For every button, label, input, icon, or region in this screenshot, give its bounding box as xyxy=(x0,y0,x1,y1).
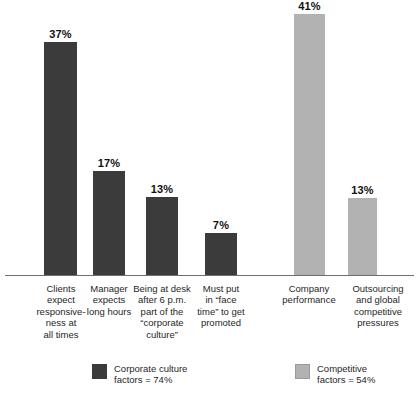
bar-value-label: 13% xyxy=(351,184,374,196)
bar-value-label: 7% xyxy=(213,219,229,231)
chart-legend: Corporate culture factors = 74% Competit… xyxy=(0,356,419,394)
bar-value-label: 17% xyxy=(98,157,121,169)
bar-rect xyxy=(294,14,325,276)
bar-manager-expects-long-hours[interactable]: 17% xyxy=(93,170,125,276)
legend-swatch-dark-icon xyxy=(92,364,107,379)
legend-swatch-light-icon xyxy=(295,364,310,379)
bar-value-label: 37% xyxy=(49,28,72,40)
bar-rect xyxy=(44,42,77,276)
legend-label: Competitive factors = 54% xyxy=(317,363,375,386)
bar-value-label: 41% xyxy=(298,0,321,12)
bar-outsourcing-and-global-competitive-pressures[interactable]: 13% xyxy=(348,197,377,276)
bar-rect xyxy=(93,171,125,276)
legend-label: Corporate culture factors = 74% xyxy=(114,363,187,386)
category-label-company-performance: Company performance xyxy=(272,283,346,306)
bar-being-at-desk-after-6pm[interactable]: 13% xyxy=(146,196,178,276)
bar-clients-expect-responsiveness[interactable]: 37% xyxy=(44,41,77,276)
bar-must-put-in-face-time[interactable]: 7% xyxy=(205,232,237,276)
legend-item-competitive[interactable]: Competitive factors = 54% xyxy=(295,363,375,386)
bar-chart: 37% 17% 13% 7% 41% 13% Clien xyxy=(0,0,419,394)
axis-baseline xyxy=(5,275,414,276)
bar-rect xyxy=(348,198,377,276)
bar-value-label: 13% xyxy=(151,183,174,195)
bar-rect xyxy=(146,197,178,276)
category-label-must-put-in-face-time: Must put in “face time” to get promoted xyxy=(186,283,256,329)
legend-item-corporate-culture[interactable]: Corporate culture factors = 74% xyxy=(92,363,187,386)
plot-area: 37% 17% 13% 7% 41% 13% xyxy=(0,0,419,276)
bar-rect xyxy=(205,233,237,276)
bar-company-performance[interactable]: 41% xyxy=(294,13,325,276)
category-label-outsourcing-and-global-competitive-pressures: Outsourcing and global competitive press… xyxy=(341,283,415,329)
